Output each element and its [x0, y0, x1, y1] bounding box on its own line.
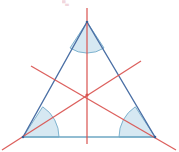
triangle-right-side	[87, 22, 155, 137]
incenter-point	[85, 93, 88, 96]
angle-arcs-group	[23, 22, 155, 137]
vertex-apex-point	[86, 21, 89, 24]
vertex-bottom-right-point	[154, 136, 157, 139]
triangle-bisectors-svg	[0, 0, 179, 152]
geometry-figure: ▀▄	[0, 0, 179, 152]
bottom-right-angle-arc	[119, 107, 155, 137]
vertex-bottom-left-point	[22, 136, 25, 139]
